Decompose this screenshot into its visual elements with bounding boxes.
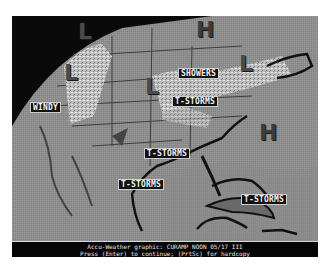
low-pressure-icon: L [239, 53, 253, 75]
weather-label-tstorms: T-STORMS [118, 179, 164, 190]
weather-label-tstorms: T-STORMS [241, 194, 287, 205]
weather-label-showers: SHOWERS [178, 68, 219, 79]
low-pressure-icon: L [78, 21, 92, 43]
high-pressure-icon: H [196, 19, 214, 41]
low-pressure-icon: L [145, 76, 159, 98]
graphic-caption: Accu-Weather graphic: CURAMP NOON 05/17 … [12, 243, 318, 250]
weather-screen: L L H L L H WINDY SHOWERS T-STORMS T-STO… [12, 16, 318, 257]
weather-label-tstorms: T-STORMS [172, 96, 218, 107]
low-pressure-icon: L [64, 62, 78, 84]
status-footer: Accu-Weather graphic: CURAMP NOON 05/17 … [12, 241, 318, 257]
high-pressure-icon: H [259, 122, 277, 144]
continue-prompt: Press (Enter) to continue; (PrtSc) for h… [12, 250, 318, 257]
weather-label-windy: WINDY [30, 102, 61, 113]
weather-label-tstorms: T-STORMS [144, 148, 190, 159]
